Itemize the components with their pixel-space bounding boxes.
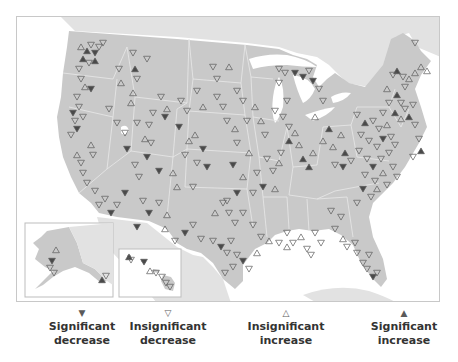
- filled-up-triangle-icon: ▲: [344, 306, 458, 320]
- legend: ▼ Significant decrease ▽ Insignificant d…: [0, 306, 458, 362]
- insig-dec-marker: [344, 244, 351, 250]
- cuba-land: [303, 288, 397, 302]
- insig-inc-marker: [284, 244, 291, 250]
- hollow-down-triangle-icon: ▽: [108, 306, 228, 320]
- insig-dec-marker: [276, 240, 283, 246]
- legend-label-line1: Insignificant: [108, 320, 228, 334]
- legend-significant-increase: ▲ Significant increase: [344, 306, 458, 348]
- legend-label-line2: increase: [344, 334, 458, 348]
- legend-insignificant-increase: △ Insignificant increase: [226, 306, 346, 348]
- insig-inc-marker: [298, 234, 305, 240]
- insig-dec-marker: [308, 252, 315, 258]
- legend-label-line2: decrease: [108, 334, 228, 348]
- legend-label-line2: increase: [226, 334, 346, 348]
- insig-dec-marker: [318, 240, 325, 246]
- insig-dec-marker: [290, 240, 297, 246]
- sig-inc-marker: [418, 148, 425, 154]
- insig-dec-marker: [312, 230, 319, 236]
- insig-dec-marker: [304, 246, 311, 252]
- us-streamflow-trend-map: [17, 17, 440, 302]
- legend-label-line1: Insignificant: [226, 320, 346, 334]
- alaska-inset: [25, 223, 113, 297]
- map-frame: [16, 16, 440, 302]
- insig-dec-marker: [246, 266, 253, 272]
- hollow-up-triangle-icon: △: [226, 306, 346, 320]
- legend-label-line1: Significant: [344, 320, 458, 334]
- legend-insignificant-decrease: ▽ Insignificant decrease: [108, 306, 228, 348]
- insig-inc-marker: [254, 250, 261, 256]
